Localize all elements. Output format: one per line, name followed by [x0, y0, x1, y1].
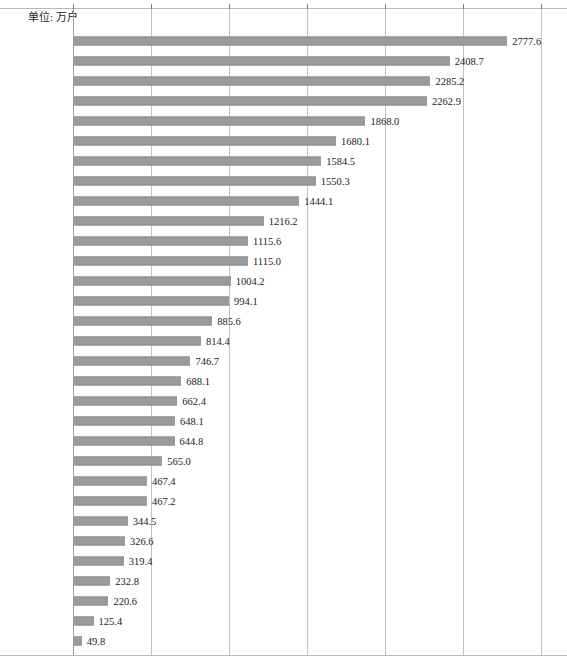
bar[interactable]: [74, 197, 299, 206]
bar[interactable]: [74, 617, 94, 626]
bar-row: 浙江1550.3: [73, 171, 541, 191]
bar[interactable]: [74, 517, 128, 526]
bar-row: 江苏2285.2: [73, 71, 541, 91]
x-axis-tick-mark: [463, 4, 464, 9]
bar-value-label: 662.4: [182, 395, 206, 408]
bar-value-label: 688.1: [186, 375, 210, 388]
bar[interactable]: [74, 577, 110, 586]
bar-value-label: 2262.9: [432, 95, 461, 108]
bar[interactable]: [74, 257, 248, 266]
bar[interactable]: [74, 237, 248, 246]
bar-row: 辽宁648.1: [73, 411, 541, 431]
bar[interactable]: [74, 217, 264, 226]
bar-row: 福建1115.0: [73, 251, 541, 271]
bar-value-label: 125.4: [99, 615, 123, 628]
x-axis-tick-mark: [151, 4, 152, 9]
bar-value-label: 344.5: [133, 515, 157, 528]
bar-row: 陕西994.1: [73, 291, 541, 311]
bar-chart: 单位: 万户 0.0500.01000.01500.02000.02500.03…: [0, 0, 567, 664]
bar-value-label: 220.6: [113, 595, 137, 608]
bar[interactable]: [74, 417, 175, 426]
bar[interactable]: [74, 297, 229, 306]
bar-row: 云南814.4: [73, 331, 541, 351]
bar-value-label: 49.8: [87, 635, 105, 648]
bar-row: 吉林319.4: [73, 551, 541, 571]
x-axis-tick-mark: [385, 4, 386, 9]
bar-value-label: 319.4: [129, 555, 153, 568]
bar[interactable]: [74, 57, 450, 66]
bar[interactable]: [74, 177, 316, 186]
bar-row: 内蒙古467.4: [73, 471, 541, 491]
bar-value-label: 565.0: [167, 455, 191, 468]
bar[interactable]: [74, 157, 321, 166]
bar-row: 宁夏232.8: [73, 571, 541, 591]
bar-value-label: 994.1: [234, 295, 258, 308]
gridline: [541, 9, 542, 655]
bar[interactable]: [74, 357, 190, 366]
x-axis-tick-mark: [307, 4, 308, 9]
plot-area: 0.0500.01000.01500.02000.02500.03000.0 四…: [73, 9, 541, 655]
bar-value-label: 1680.1: [341, 135, 370, 148]
bar[interactable]: [74, 317, 212, 326]
bar-row: 河北1680.1: [73, 131, 541, 151]
bar-row: 上海565.0: [73, 451, 541, 471]
bar[interactable]: [74, 117, 365, 126]
bar-value-label: 1550.3: [321, 175, 350, 188]
bar-row: 湖南1444.1: [73, 191, 541, 211]
bar[interactable]: [74, 337, 201, 346]
frame-rule-bottom: [0, 655, 567, 656]
bar-row: 西藏49.8: [73, 631, 541, 651]
bar-value-label: 885.6: [217, 315, 241, 328]
bar[interactable]: [74, 497, 147, 506]
bar[interactable]: [74, 397, 177, 406]
bar-row: 安徽1584.5: [73, 151, 541, 171]
bar[interactable]: [74, 637, 82, 646]
bar[interactable]: [74, 137, 336, 146]
bar-value-label: 467.4: [152, 475, 176, 488]
bar-value-label: 1004.2: [236, 275, 265, 288]
x-axis-tick-mark: [229, 4, 230, 9]
bar-value-label: 746.7: [195, 355, 219, 368]
bar-row: 青海125.4: [73, 611, 541, 631]
bar-value-label: 2777.6: [512, 35, 541, 48]
bar-value-label: 232.8: [115, 575, 139, 588]
bar[interactable]: [74, 277, 231, 286]
bar-value-label: 2285.2: [435, 75, 464, 88]
bar-row: 重庆885.6: [73, 311, 541, 331]
unit-caption: 单位: 万户: [28, 11, 78, 24]
bar[interactable]: [74, 377, 181, 386]
bar-row: 海南220.6: [73, 591, 541, 611]
bar[interactable]: [74, 537, 125, 546]
x-axis-tick-mark: [73, 4, 74, 9]
bar-row: 湖北1216.2: [73, 211, 541, 231]
bar-value-label: 2408.7: [455, 55, 484, 68]
bar-row: 四川2777.6: [73, 31, 541, 51]
bar-value-label: 1444.1: [304, 195, 333, 208]
bar-value-label: 1216.2: [269, 215, 298, 228]
bar[interactable]: [74, 477, 147, 486]
bar-row: 河南1868.0: [73, 111, 541, 131]
bar[interactable]: [74, 437, 175, 446]
bar-row: 山西662.4: [73, 391, 541, 411]
bar[interactable]: [74, 457, 162, 466]
x-axis-tick-mark: [541, 4, 542, 9]
bar-row: 天津344.5: [73, 511, 541, 531]
bar[interactable]: [74, 37, 507, 46]
bar-value-label: 814.4: [206, 335, 230, 348]
bar-value-label: 1115.6: [253, 235, 281, 248]
bar[interactable]: [74, 97, 427, 106]
bar-row: 北京326.6: [73, 531, 541, 551]
bar-row: 江西1115.6: [73, 231, 541, 251]
bar-value-label: 1868.0: [370, 115, 399, 128]
bar-row: 黑龙江467.2: [73, 491, 541, 511]
bar-row: 甘肃644.8: [73, 431, 541, 451]
bar-row: 新疆746.7: [73, 351, 541, 371]
bar[interactable]: [74, 557, 124, 566]
bar[interactable]: [74, 77, 430, 86]
bar-value-label: 644.8: [180, 435, 204, 448]
bar-value-label: 648.1: [180, 415, 204, 428]
bar[interactable]: [74, 597, 108, 606]
bar-row: 广东2408.7: [73, 51, 541, 71]
bar-row: 山东2262.9: [73, 91, 541, 111]
bar-value-label: 326.6: [130, 535, 154, 548]
